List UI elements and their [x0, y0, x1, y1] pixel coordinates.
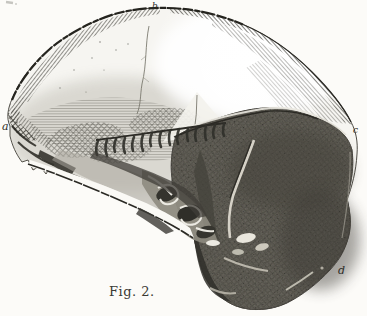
figure-plate: a b c d Fig. 2. [0, 0, 367, 316]
label-b: b [152, 1, 158, 11]
label-d: d [338, 264, 345, 277]
label-a: a [2, 120, 9, 133]
skull-figure: a b c d Fig. 2. [0, 0, 367, 316]
figure-caption: Fig. 2. [109, 284, 155, 299]
label-c: c [353, 125, 358, 135]
